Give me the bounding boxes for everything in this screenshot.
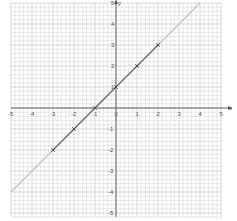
x-tick-label: -2 (71, 111, 77, 117)
y-tick-label: -3 (108, 168, 114, 174)
y-tick-label: -2 (108, 147, 114, 153)
y-tick-label: -5 (108, 210, 114, 216)
x-tick-label: 5 (220, 111, 224, 117)
x-tick-label: -3 (50, 111, 56, 117)
coordinate-grid-chart: -5-4-3-2-1012345-5-4-3-2-112345 x y (0, 0, 237, 221)
x-tick-label: -4 (29, 111, 35, 117)
y-tick-label: -1 (108, 126, 114, 132)
x-axis-label: x (229, 105, 232, 111)
plotted-segment (53, 45, 158, 150)
plot-series (11, 3, 200, 192)
x-tick-label: -1 (92, 111, 98, 117)
y-axis-label: y (118, 0, 121, 6)
y-tick-label: -4 (108, 189, 114, 195)
x-tick-label: -5 (8, 111, 14, 117)
